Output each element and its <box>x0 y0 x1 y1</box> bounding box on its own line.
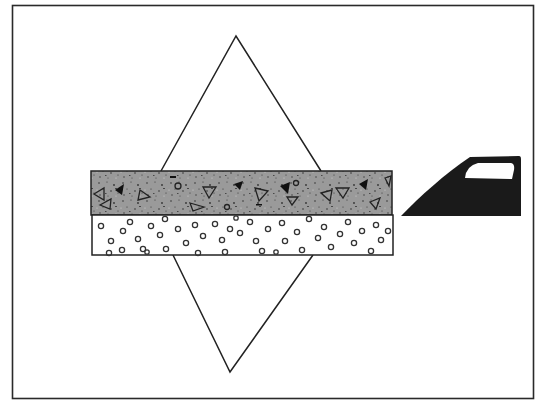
diagram-figure: Schematic: a diamond (rhombus) outline c… <box>0 0 545 404</box>
slab-upper-layer <box>91 171 392 215</box>
slab-lower-layer <box>92 215 393 256</box>
